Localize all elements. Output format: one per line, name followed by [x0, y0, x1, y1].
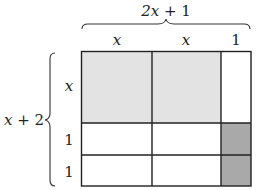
grid-and-braces [0, 0, 258, 190]
top-brace-icon [82, 19, 250, 29]
left-brace-icon [45, 53, 55, 186]
grid-lines [82, 52, 252, 187]
